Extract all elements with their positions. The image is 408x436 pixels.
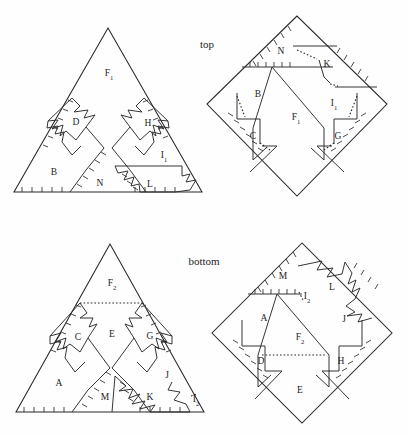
diamond-outline-bottom bbox=[212, 243, 392, 423]
face-label-I2: I2 bbox=[193, 394, 199, 407]
face-label-G: G bbox=[147, 331, 154, 341]
region-G-dotted-upper bbox=[349, 96, 357, 117]
boundary-F2-left-wedge bbox=[258, 294, 277, 387]
polyhedron-nets-figure: 109 bbox=[0, 0, 408, 436]
region-C-dotted-upper bbox=[237, 96, 245, 117]
face-label-C: C bbox=[250, 131, 256, 141]
region-K-dotted2 bbox=[330, 84, 338, 86]
face-label-F1: F1 bbox=[292, 112, 301, 125]
region-H-lower-edge bbox=[322, 371, 349, 399]
region-G-lower-edge bbox=[317, 146, 344, 172]
face-label-H: H bbox=[145, 118, 152, 128]
triangle-outline bbox=[14, 28, 202, 192]
top-right-diamond-net bbox=[207, 16, 387, 196]
boundary-F1-right-wedge bbox=[272, 67, 324, 160]
region-G-bottom bbox=[125, 303, 172, 352]
face-label-I2: I2 bbox=[304, 291, 310, 304]
bottom-left-triangle-net bbox=[16, 244, 204, 412]
region-D-lower-edge bbox=[255, 371, 282, 399]
face-label-I1: I1 bbox=[161, 150, 167, 163]
region-C-bottom bbox=[50, 303, 97, 352]
tick-marks-N-upper bbox=[253, 26, 291, 66]
tick-marks-base-bottom bbox=[24, 407, 180, 412]
face-label-J: J bbox=[165, 370, 169, 380]
face-label-L: L bbox=[147, 179, 153, 189]
face-label-C: C bbox=[75, 332, 81, 342]
face-label-N: N bbox=[278, 46, 285, 56]
figure-root: 109 bbox=[0, 0, 408, 436]
region-L bbox=[115, 166, 196, 192]
face-label-B: B bbox=[51, 167, 57, 177]
face-label-M: M bbox=[279, 271, 288, 281]
face-label-K: K bbox=[147, 392, 154, 402]
tick-marks-C-left-slope bbox=[51, 305, 81, 352]
diamond-outline bbox=[207, 16, 387, 196]
tick-marks-K-edge bbox=[120, 382, 133, 401]
face-label-A: A bbox=[261, 313, 268, 323]
face-label-N: N bbox=[97, 178, 104, 188]
tick-marks-M-upper bbox=[258, 252, 296, 292]
face-label-M: M bbox=[101, 392, 110, 402]
face-label-A: A bbox=[56, 378, 63, 388]
face-label-L: L bbox=[329, 282, 335, 292]
face-label-B: B bbox=[255, 89, 261, 99]
region-K-arrow-tail bbox=[112, 376, 115, 412]
text-layer: topbottomF1DHBI1NLNKBF1I1CGF2CEGAMKJI2ML… bbox=[51, 38, 346, 408]
face-label-D: D bbox=[258, 356, 265, 366]
face-label-F1: F1 bbox=[105, 68, 114, 81]
triangle-outline-bottom bbox=[16, 244, 204, 412]
caption-bottom: bottom bbox=[188, 255, 220, 267]
face-label-E: E bbox=[297, 385, 303, 395]
caption-top: top bbox=[200, 38, 215, 50]
marker-I2-center bbox=[299, 292, 303, 300]
tick-marks-K-slope bbox=[337, 48, 368, 81]
face-label-H: H bbox=[338, 356, 345, 366]
region-K-dotted bbox=[297, 50, 317, 59]
region-C bbox=[237, 93, 260, 144]
face-label-G: G bbox=[335, 131, 342, 141]
tick-marks-L-edge bbox=[122, 174, 138, 190]
tick-marks-N-lower bbox=[250, 62, 290, 67]
bottom-right-diamond-net bbox=[212, 243, 392, 423]
top-left-triangle-net: 109 bbox=[14, 28, 202, 192]
tick-marks-L-slope bbox=[354, 263, 378, 289]
face-label-F2: F2 bbox=[108, 278, 117, 291]
region-G-dotted-lower bbox=[324, 143, 334, 150]
face-label-J: J bbox=[342, 314, 346, 324]
face-label-E: E bbox=[109, 329, 115, 339]
face-label-K: K bbox=[324, 59, 331, 69]
face-label-I1: I1 bbox=[331, 98, 337, 111]
face-label-F2: F2 bbox=[296, 332, 305, 345]
face-label-D: D bbox=[73, 117, 80, 127]
